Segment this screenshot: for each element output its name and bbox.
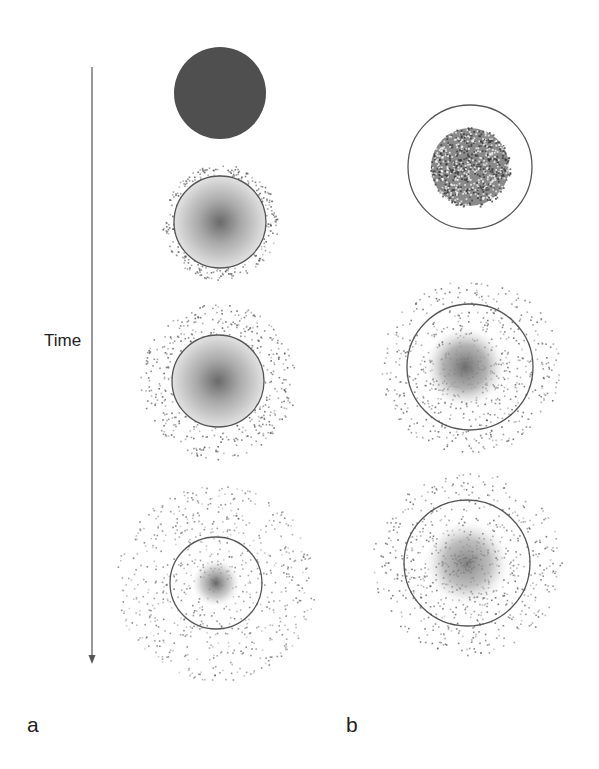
panel-a-stage-2-gradient-disk [174, 176, 266, 268]
diffusion-figure [0, 0, 599, 769]
panel-a-stage-1-solid-disk [174, 47, 266, 139]
panel-b-stage-3-core-cloud [425, 521, 509, 605]
panel-b-stage-2-core-cloud [425, 327, 505, 407]
time-arrow [89, 67, 96, 664]
time-axis-label: Time [44, 331, 81, 351]
panel-a-stage-4-core-cloud [192, 559, 240, 607]
panel-a-stage-3-gradient-disk [172, 335, 264, 427]
panel-label-b: b [346, 713, 358, 737]
panel-label-a: a [27, 713, 39, 737]
